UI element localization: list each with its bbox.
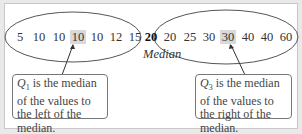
q3-highlighted-value: 30 [220, 30, 236, 44]
q1-symbol: Q [17, 76, 26, 90]
left-value: 5 [12, 30, 28, 44]
q3-arrow [231, 45, 245, 75]
right-value: 25 [182, 30, 198, 44]
q1-arrow [62, 45, 73, 75]
left-value: 10 [31, 30, 47, 44]
left-value: 12 [108, 30, 124, 44]
q3-callout: Q3 is the median of the values to the ri… [195, 74, 292, 119]
median-value: 20 [143, 30, 159, 44]
median-label: Median [143, 47, 181, 62]
q3-arrowhead-icon [229, 44, 234, 49]
left-value: 10 [89, 30, 105, 44]
left-value: 15 [127, 30, 143, 44]
left-value: 10 [51, 30, 67, 44]
q1-callout: Q1 is the median of the values to the le… [12, 74, 108, 119]
right-value: 20 [162, 30, 178, 44]
right-value: 40 [240, 30, 256, 44]
right-value: 40 [259, 30, 275, 44]
q3-symbol: Q [200, 76, 209, 90]
q1-highlighted-value: 10 [70, 30, 86, 44]
right-value: 30 [201, 30, 217, 44]
right-value: 60 [278, 30, 294, 44]
q1-arrowhead-icon [70, 44, 75, 49]
